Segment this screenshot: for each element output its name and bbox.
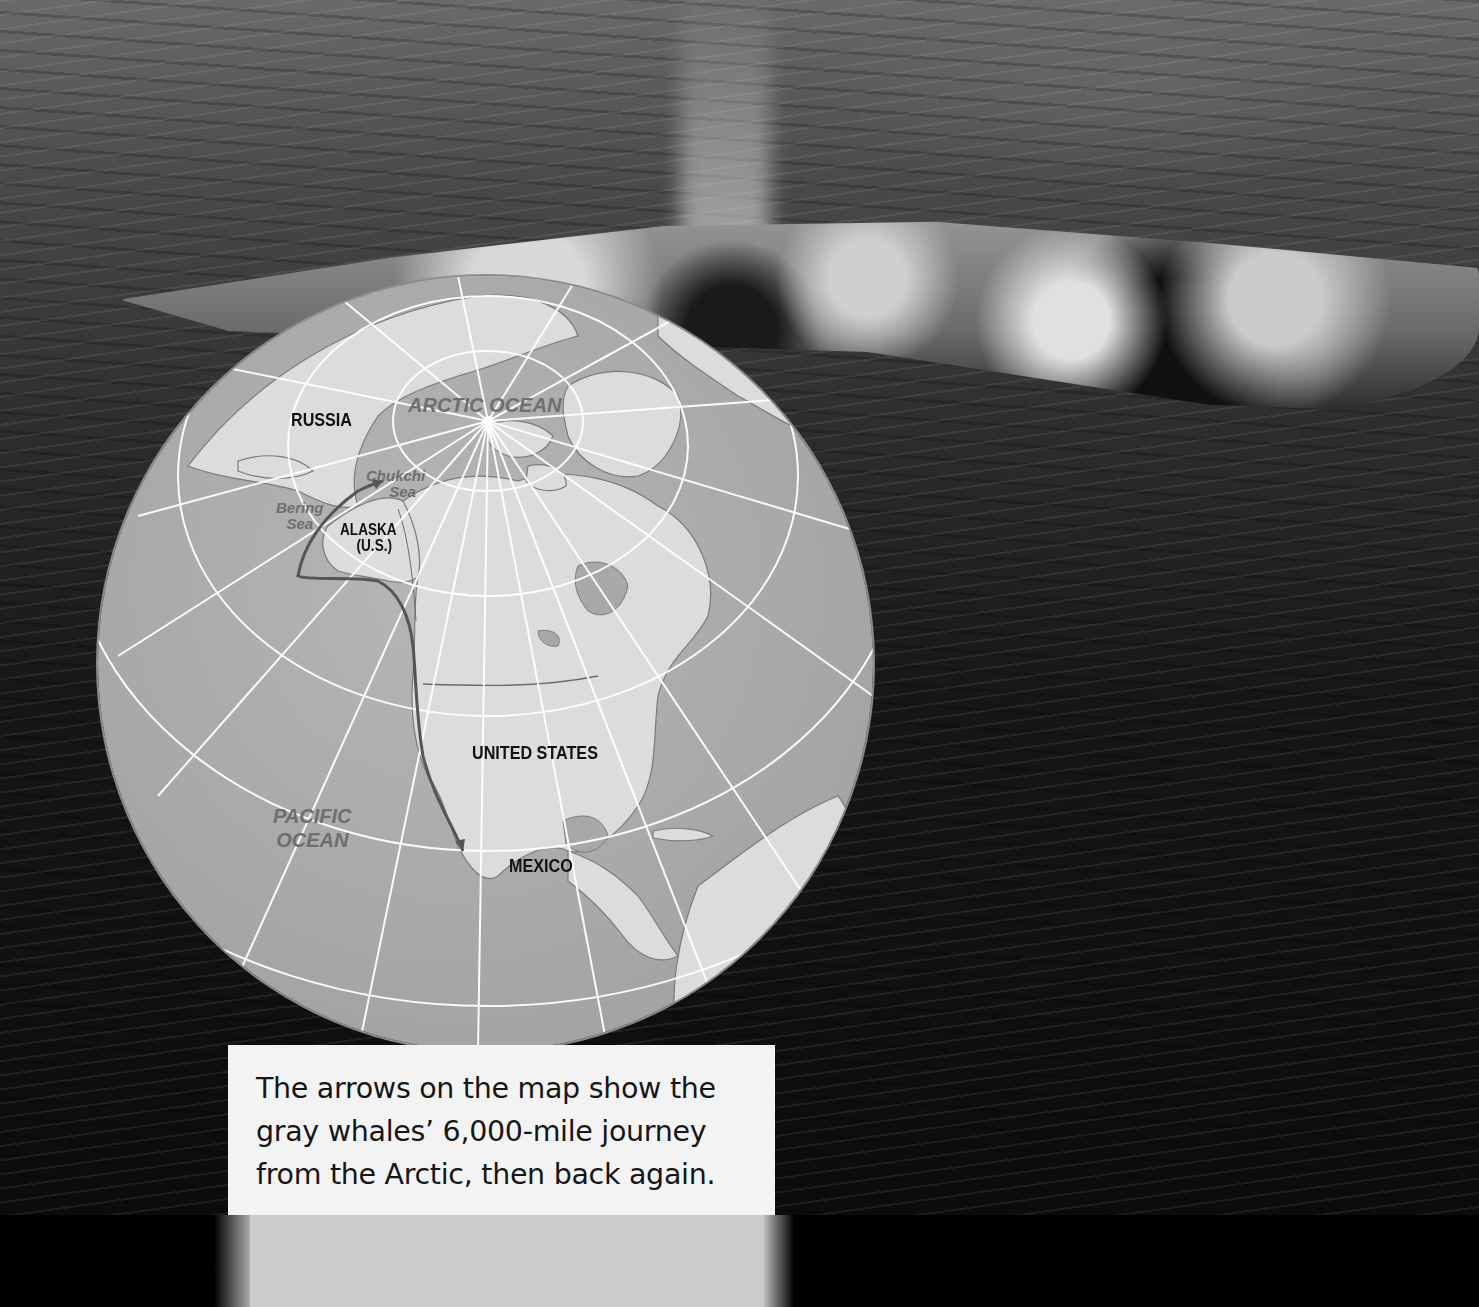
label-united-states: UNITED STATES bbox=[472, 743, 598, 762]
label-bering-sea: Bering Sea bbox=[276, 500, 324, 532]
label-chukchi-sea: Chukchi Sea bbox=[366, 468, 425, 500]
globe: ARCTIC OCEAN RUSSIA Chukchi Sea Bering S… bbox=[98, 276, 873, 1051]
label-alaska: ALASKA (U.S.) bbox=[340, 522, 397, 554]
label-arctic-ocean: ARCTIC OCEAN bbox=[408, 395, 561, 415]
caption-line-3: from the Arctic, then back again. bbox=[256, 1153, 775, 1196]
gray-block-edge-left bbox=[214, 1215, 254, 1307]
north-pole-marker bbox=[483, 416, 493, 426]
gray-block bbox=[250, 1215, 766, 1307]
caption-line-1: The arrows on the map show the bbox=[256, 1067, 775, 1110]
label-russia: RUSSIA bbox=[291, 410, 352, 429]
gray-block-edge-right bbox=[764, 1215, 794, 1307]
globe-map: ARCTIC OCEAN RUSSIA Chukchi Sea Bering S… bbox=[98, 276, 873, 1051]
whale-spout bbox=[680, 0, 770, 250]
label-pacific-ocean: PACIFIC OCEAN bbox=[273, 804, 352, 852]
caption-box: The arrows on the map show the gray whal… bbox=[228, 1045, 775, 1215]
caption-line-2: gray whales’ 6,000-mile journey bbox=[256, 1110, 775, 1153]
globe-graphics bbox=[98, 276, 873, 1051]
label-mexico: MEXICO bbox=[509, 856, 573, 875]
